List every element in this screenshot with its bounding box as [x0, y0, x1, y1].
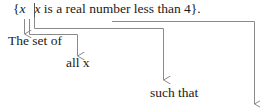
label-such-that: such that: [150, 86, 198, 100]
connector-lines: [0, 0, 260, 108]
label-all-x: all x: [66, 56, 90, 70]
arrow-such-that: [35, 17, 164, 80]
label-the-set-of: The set of: [8, 34, 62, 48]
